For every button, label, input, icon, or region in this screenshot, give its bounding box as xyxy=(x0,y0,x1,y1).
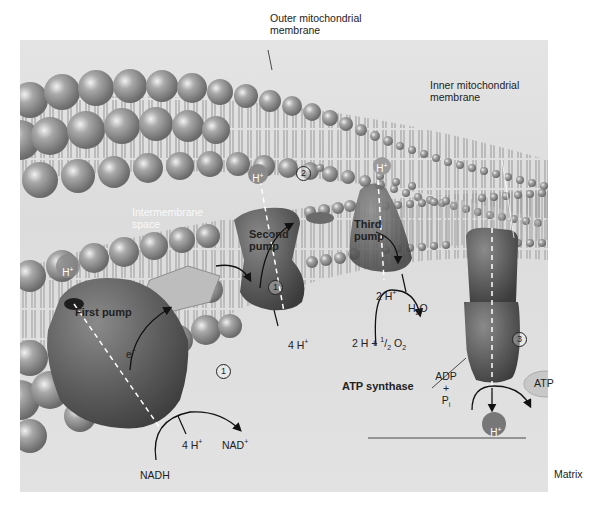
second-pump-label: Second pump xyxy=(249,228,289,252)
third-pump-label: Third pump xyxy=(354,218,384,242)
h-ion-second-pump: H+ xyxy=(248,166,268,186)
first-pump-4h-label: 4 H+ xyxy=(182,436,202,451)
page-margin xyxy=(548,140,592,508)
water-label: H2O xyxy=(408,302,428,319)
mitochondrion-illustration xyxy=(20,40,548,492)
h-ion-matrix: H+ xyxy=(484,418,508,442)
oxygen-reactant-label: 2 H + 1/2 O2 xyxy=(352,334,406,354)
h-ion-third-pump: H+ xyxy=(373,157,391,175)
inner-membrane-label: Inner mitochondrial membrane xyxy=(430,79,519,103)
step-marker-1-second-pump: 1 xyxy=(268,280,283,295)
third-pump-2h-label: 2 H+ xyxy=(376,287,396,302)
step-marker-1-matrix: 1 xyxy=(216,364,231,379)
diagram-stage xyxy=(20,40,548,492)
nad-plus-label: NAD+ xyxy=(222,436,248,451)
electron-label: e− xyxy=(126,345,136,360)
atp-label: ATP xyxy=(534,377,554,389)
step-marker-3: 3 xyxy=(512,332,527,347)
first-pump-label: First pump xyxy=(75,306,132,318)
outer-membrane-label: Outer mitochondrial membrane xyxy=(270,12,362,36)
adp-pi-label: ADP + Pi xyxy=(432,370,460,411)
intermembrane-space-label: Intermembrane space xyxy=(132,206,203,230)
step-marker-2: 2 xyxy=(296,166,311,181)
second-pump-4h-label: 4 H+ xyxy=(288,336,308,351)
nadh-label: NADH xyxy=(140,469,170,481)
atp-synthase-label: ATP synthase xyxy=(342,380,414,392)
matrix-label: Matrix xyxy=(554,468,583,480)
h-ion-intermembrane: H+ xyxy=(56,258,80,282)
